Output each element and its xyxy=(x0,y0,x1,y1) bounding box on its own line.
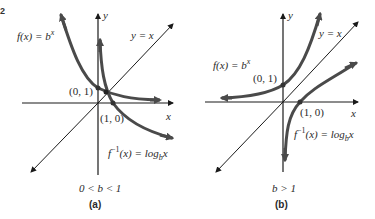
panel-b-identity-line-lower xyxy=(216,102,283,172)
panel-a-exp-label: f(x) = bx xyxy=(17,29,54,42)
panel-a-condition: 0 < b < 1 xyxy=(79,183,121,194)
panel-a-point-0-1 xyxy=(96,86,101,91)
panel-b-point-1-0 xyxy=(298,100,303,105)
panel-a-identity-label: y = x xyxy=(131,30,154,41)
panel-a-caption: (a) xyxy=(89,200,101,210)
panel-a-point-1-0 xyxy=(111,101,116,106)
panel-b-point-0-1 xyxy=(281,83,286,88)
panel-b-exp-label: f(x) = bx xyxy=(213,58,250,71)
panel-a-intersection-point xyxy=(104,90,109,95)
panel-a-point-1-0-label: (1, 0) xyxy=(100,113,124,124)
panel-a-point-0-1-label: (0, 1) xyxy=(69,86,93,97)
panel-a-identity-line-lower xyxy=(31,103,98,172)
panel-b-identity-label: y = x xyxy=(319,28,342,39)
panel-b-condition: b > 1 xyxy=(272,183,296,194)
panel-a-y-axis-label: y xyxy=(103,10,108,21)
panel-b-caption: (b) xyxy=(275,200,288,210)
panel-b-y-axis-label: y xyxy=(288,10,293,21)
panel-b-log-label: f−1(x) = logbx xyxy=(294,127,354,143)
panel-b-exp-curve xyxy=(222,14,320,98)
panel-b-x-axis-label: x xyxy=(351,108,356,119)
panel-b-point-0-1-label: (0, 1) xyxy=(253,73,277,84)
figure: 2 xyxy=(0,0,375,219)
panel-a-log-label: f−1(x) = logbx xyxy=(108,146,168,162)
panel-a-x-axis-label: x xyxy=(166,111,171,122)
panel-b-point-1-0-label: (1, 0) xyxy=(300,107,324,118)
